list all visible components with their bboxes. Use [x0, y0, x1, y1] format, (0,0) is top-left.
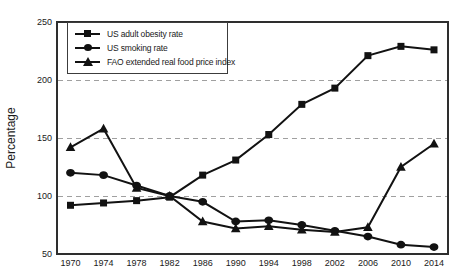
triangle-marker [99, 124, 109, 133]
x-tick-label-1986: 1986 [193, 258, 213, 268]
legend-label: US adult obesity rate [107, 29, 183, 39]
y-tick-label-200: 200 [37, 75, 52, 85]
legend-item-triangle: FAO extended real food price index [75, 55, 223, 68]
circle-marker [99, 171, 108, 179]
x-tick-label-2010: 2010 [391, 258, 411, 268]
circle-marker [364, 233, 373, 241]
square-marker [331, 85, 338, 92]
legend-swatch [75, 43, 100, 53]
y-tick-label-100: 100 [37, 191, 52, 201]
square-marker [199, 172, 206, 179]
x-tick-label-1970: 1970 [60, 258, 80, 268]
square-marker [364, 52, 371, 59]
triangle-marker [429, 139, 439, 148]
x-tick-label-2006: 2006 [358, 258, 378, 268]
x-tick-label-1990: 1990 [226, 258, 246, 268]
square-marker [232, 157, 239, 164]
square-marker-icon [84, 30, 91, 37]
legend-item-circle: US smoking rate [75, 41, 223, 54]
circle-marker-icon [84, 44, 92, 51]
chart-figure: 5010015020025019701974197819821986199019… [0, 0, 470, 280]
square-marker [265, 131, 272, 138]
x-tick-label-2014: 2014 [424, 258, 444, 268]
circle-marker [66, 169, 75, 177]
y-tick-label-250: 250 [37, 17, 52, 27]
square-marker [397, 43, 404, 50]
x-tick-label-1982: 1982 [160, 258, 180, 268]
series-line-triangle [71, 129, 434, 232]
square-marker [133, 197, 140, 204]
circle-marker [430, 243, 439, 251]
y-axis-title: Percentage [4, 88, 18, 188]
legend-box: US adult obesity rateUS smoking rateFAO … [67, 22, 228, 74]
circle-marker [198, 198, 207, 206]
x-tick-label-1978: 1978 [127, 258, 147, 268]
y-tick-label-50: 50 [42, 249, 52, 259]
square-marker [430, 46, 437, 53]
triangle-marker [66, 142, 76, 151]
legend-item-square: US adult obesity rate [75, 27, 223, 40]
legend-label: US smoking rate [107, 43, 168, 53]
triangle-marker-icon [83, 57, 93, 66]
triangle-marker [396, 162, 406, 171]
legend-label: FAO extended real food price index [107, 57, 235, 67]
series-line-circle [71, 173, 434, 247]
x-tick-label-1994: 1994 [259, 258, 279, 268]
y-tick-label-150: 150 [37, 133, 52, 143]
square-marker [298, 101, 305, 108]
circle-marker [397, 241, 406, 249]
legend-swatch [75, 29, 100, 39]
triangle-marker [363, 222, 373, 231]
legend-swatch [75, 57, 100, 67]
square-marker [100, 199, 107, 206]
square-marker [67, 202, 74, 209]
x-tick-label-1974: 1974 [94, 258, 114, 268]
x-tick-label-2002: 2002 [325, 258, 345, 268]
x-tick-label-1998: 1998 [292, 258, 312, 268]
